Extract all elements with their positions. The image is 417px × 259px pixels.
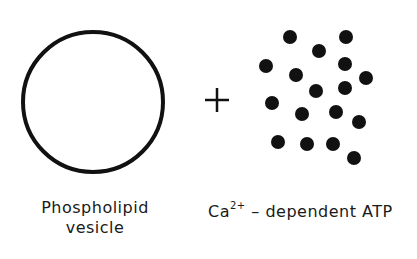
vesicle-label-line2: vesicle: [20, 218, 170, 238]
atpase-dot: [339, 30, 353, 44]
atpase-dot: [289, 68, 303, 82]
atpase-label: Ca2+ – dependent ATP: [208, 198, 393, 222]
atpase-dot: [309, 84, 323, 98]
plus-sign-icon: [205, 88, 229, 112]
atpase-dot: [338, 81, 352, 95]
atpase-dot: [326, 137, 340, 151]
atpase-particles: [259, 30, 373, 165]
atpase-dot: [271, 135, 285, 149]
vesicle-label: Phospholipid vesicle: [20, 198, 170, 238]
atpase-dot: [352, 115, 366, 129]
atpase-dot: [338, 57, 352, 71]
atpase-label-prefix: Ca: [208, 202, 230, 221]
atpase-dot: [300, 137, 314, 151]
atpase-dot: [312, 44, 326, 58]
atpase-dot: [359, 71, 373, 85]
atpase-label-charge: 2+: [230, 200, 246, 211]
vesicle-label-line1: Phospholipid: [20, 198, 170, 218]
atpase-dot: [329, 105, 343, 119]
atpase-dot: [295, 107, 309, 121]
atpase-dot: [347, 151, 361, 165]
phospholipid-vesicle-circle: [23, 32, 163, 172]
atpase-label-suffix: – dependent ATP: [246, 202, 393, 221]
atpase-dot: [265, 96, 279, 110]
atpase-dot: [259, 59, 273, 73]
atpase-dot: [283, 30, 297, 44]
